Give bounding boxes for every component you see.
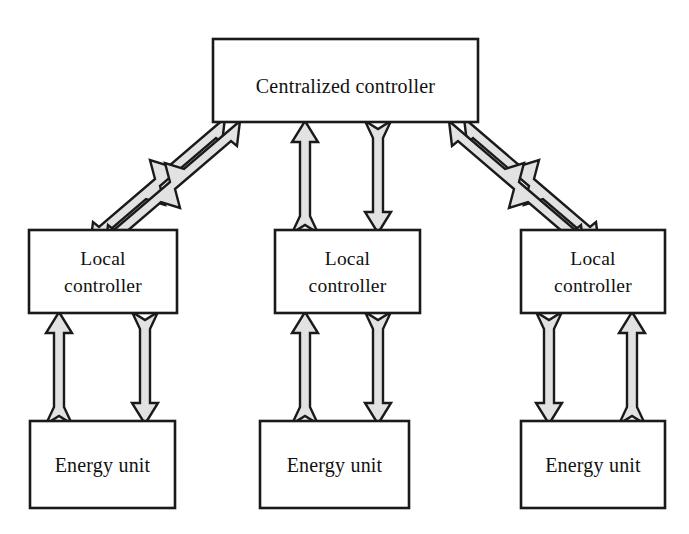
node-energy-unit-right: Energy unit (521, 421, 665, 508)
arrow-centralized-to-middle-local (365, 121, 391, 233)
arrow-left-energy-to-local (46, 312, 72, 424)
node-local-controller-left: Local controller (29, 230, 177, 313)
node-local-controller-right: Local controller (521, 230, 665, 313)
arrow-middle-local-to-energy (365, 312, 391, 424)
diagram-canvas: Centralized controller Local controller … (0, 0, 689, 534)
node-energy-unit-middle: Energy unit (260, 421, 409, 508)
local-controller-left-label-line2: controller (64, 275, 142, 296)
energy-unit-left-label: Energy unit (55, 454, 151, 477)
node-centralized-controller: Centralized controller (213, 39, 478, 122)
control-architecture-diagram: Centralized controller Local controller … (0, 0, 689, 534)
arrow-left-local-to-energy (132, 312, 158, 424)
local-controller-right-label-line2: controller (554, 275, 632, 296)
centralized-controller-label: Centralized controller (256, 75, 435, 97)
local-controller-right-label-line1: Local (570, 248, 616, 269)
energy-unit-middle-label: Energy unit (287, 454, 383, 477)
node-energy-unit-left: Energy unit (30, 421, 175, 508)
local-controller-middle-label-line2: controller (309, 275, 387, 296)
local-controller-middle-label-line1: Local (325, 248, 371, 269)
arrow-middle-energy-to-local (292, 312, 318, 424)
node-local-controller-middle: Local controller (275, 230, 420, 313)
arrow-right-energy-to-local (619, 312, 645, 424)
local-controller-left-label-line1: Local (80, 248, 126, 269)
energy-unit-right-label: Energy unit (545, 454, 641, 477)
arrow-middle-local-to-centralized (292, 121, 318, 233)
arrow-right-local-to-energy (536, 312, 562, 424)
